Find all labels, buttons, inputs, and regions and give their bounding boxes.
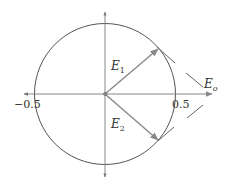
e1-tangent-line [157, 47, 175, 63]
phasor-diagram: −0.5 0.5 E1 E2 Eo [0, 0, 225, 187]
x-tick-neg: −0.5 [14, 98, 41, 111]
label-e1: E1 [110, 59, 125, 75]
x-tick-pos: 0.5 [172, 98, 190, 111]
label-eo: Eo [203, 77, 218, 93]
eo-guide-upper [186, 73, 203, 87]
label-e2: E2 [110, 117, 125, 133]
